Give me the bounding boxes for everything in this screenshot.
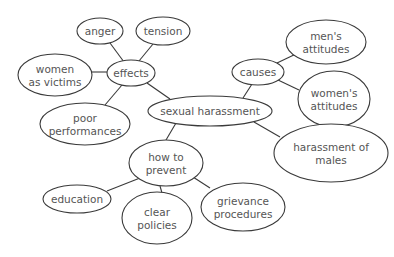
node-label: attitudes <box>311 100 358 112</box>
edge-how-to-prevent-to-grievance-procedures <box>193 177 210 188</box>
edge-sexual-harassment-to-harassment-of-males <box>254 122 280 137</box>
node-mens-attitudes: men'sattitudes <box>286 20 366 64</box>
node-label: grievance <box>217 195 269 207</box>
node-label: how to <box>148 151 184 163</box>
node-sexual-harassment: sexual harassment <box>148 96 272 126</box>
node-label: women <box>36 63 74 75</box>
node-label: performances <box>49 125 122 137</box>
node-anger: anger <box>77 18 123 44</box>
node-education: education <box>43 185 111 213</box>
node-how-to-prevent: how toprevent <box>129 140 203 186</box>
mind-map-diagram: sexual harassmenteffectsangertensionwome… <box>0 0 394 257</box>
edge-sexual-harassment-to-how-to-prevent <box>166 123 176 140</box>
node-label: women's <box>311 87 358 99</box>
node-label: procedures <box>214 208 273 220</box>
node-causes: causes <box>232 59 284 85</box>
node-label: effects <box>113 67 149 79</box>
node-label: poor <box>73 112 98 124</box>
node-label: tension <box>144 25 183 37</box>
edge-effects-to-poor-performances <box>105 85 122 105</box>
edge-causes-to-sexual-harassment <box>243 84 252 98</box>
node-label: policies <box>137 219 177 231</box>
node-tension: tension <box>136 17 190 45</box>
node-label: as victims <box>29 76 82 88</box>
node-label: sexual harassment <box>160 105 260 117</box>
node-label: clear <box>144 206 171 218</box>
node-clear-policies: clearpolicies <box>122 192 192 244</box>
node-effects: effects <box>107 60 155 86</box>
node-label: causes <box>240 66 276 78</box>
edge-effects-to-tension <box>139 44 153 61</box>
node-label: prevent <box>146 164 187 176</box>
node-label: men's <box>310 30 342 42</box>
node-grievance-procedures: grievanceprocedures <box>201 183 285 231</box>
edge-how-to-prevent-to-education <box>107 178 140 191</box>
edge-effects-to-anger <box>110 43 124 62</box>
node-label: anger <box>85 25 116 37</box>
node-harassment-of-males: harassment ofmales <box>274 124 388 182</box>
concept-nodes: sexual harassmenteffectsangertensionwome… <box>18 17 388 244</box>
node-label: males <box>315 154 347 166</box>
node-women-as-victims: womenas victims <box>18 54 92 96</box>
node-womens-attitudes: women'sattitudes <box>298 71 370 127</box>
node-label: education <box>51 193 103 205</box>
edge-effects-to-sexual-harassment <box>147 83 170 99</box>
edge-causes-to-womens-attitudes <box>278 80 299 90</box>
node-poor-performances: poorperformances <box>40 103 130 145</box>
node-label: attitudes <box>303 43 350 55</box>
node-label: harassment of <box>293 141 369 153</box>
